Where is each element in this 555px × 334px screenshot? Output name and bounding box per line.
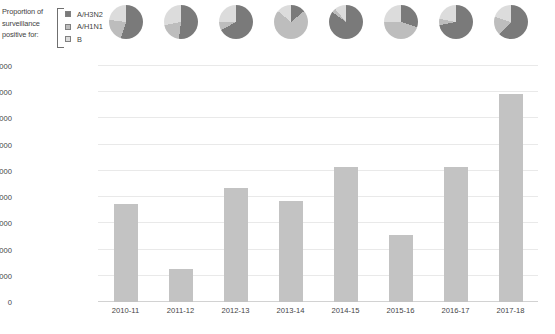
chart-figure: Proportion of surveillance positive for:… <box>0 0 555 334</box>
legend-keys: A/H3N2 A/H1N1 B <box>65 8 103 46</box>
pie-chart-2011-12 <box>164 5 198 39</box>
legend-item-ah3n2: A/H3N2 <box>65 8 103 21</box>
gridline <box>98 249 538 250</box>
x-tick-label: 2017-18 <box>481 306 541 315</box>
bar <box>334 167 358 302</box>
legend-label-b: B <box>77 35 82 44</box>
legend-item-b: B <box>65 33 103 46</box>
bar <box>499 94 523 302</box>
gridline <box>98 222 538 223</box>
pie-chart-2016-17 <box>439 5 473 39</box>
gridline <box>98 170 538 171</box>
gridline <box>98 117 538 118</box>
y-tick-label: 10000 <box>0 272 12 281</box>
y-tick-label: 70000 <box>0 114 12 123</box>
legend-brace-icon <box>57 8 64 48</box>
y-tick-label: 90000 <box>0 62 12 71</box>
y-tick-label: 40000 <box>0 193 12 202</box>
x-tick-label: 2012-13 <box>206 306 266 315</box>
legend-item-ah1n1: A/H1N1 <box>65 21 103 34</box>
y-tick-label: 50000 <box>0 167 12 176</box>
bar <box>389 235 413 302</box>
bar <box>114 204 138 302</box>
axis-baseline <box>98 301 538 302</box>
x-tick-label: 2011-12 <box>151 306 211 315</box>
pie-chart-2012-13 <box>219 5 253 39</box>
x-tick-label: 2010-11 <box>96 306 156 315</box>
gridline <box>98 144 538 145</box>
legend-label-ah3n2: A/H3N2 <box>77 10 103 19</box>
pie-chart-2015-16 <box>384 5 418 39</box>
bar <box>169 269 193 302</box>
x-tick-label: 2014-15 <box>316 306 376 315</box>
bar <box>444 167 468 302</box>
x-tick-label: 2016-17 <box>426 306 486 315</box>
pie-chart-2010-11 <box>109 5 143 39</box>
pie-chart-2013-14 <box>274 5 308 39</box>
legend-caption-line-2: surveillance <box>2 18 57 30</box>
legend-caption-line-1: Proportion of <box>2 6 57 18</box>
gridline <box>98 91 538 92</box>
bar <box>279 201 303 302</box>
y-tick-label: 20000 <box>0 246 12 255</box>
pie-chart-2014-15 <box>329 5 363 39</box>
y-tick-label: 80000 <box>0 88 12 97</box>
bar <box>224 188 248 302</box>
legend-label-ah1n1: A/H1N1 <box>77 22 103 31</box>
y-tick-label: 30000 <box>0 219 12 228</box>
x-tick-label: 2013-14 <box>261 306 321 315</box>
y-tick-label: 60000 <box>0 141 12 150</box>
pie-chart-2017-18 <box>494 5 528 39</box>
legend-swatch-b <box>65 36 71 42</box>
y-tick-label: 0 <box>0 298 12 307</box>
plot-area: 2010-112011-122012-132013-142014-152015-… <box>98 66 538 302</box>
x-tick-label: 2015-16 <box>371 306 431 315</box>
gridline <box>98 65 538 66</box>
legend-swatch-ah3n2 <box>65 11 71 17</box>
legend-caption-line-3: positive for: <box>2 29 57 41</box>
legend-swatch-ah1n1 <box>65 24 71 30</box>
gridline <box>98 196 538 197</box>
gridline <box>98 275 538 276</box>
legend-caption: Proportion of surveillance positive for: <box>2 6 57 41</box>
legend: Proportion of surveillance positive for:… <box>2 6 112 50</box>
